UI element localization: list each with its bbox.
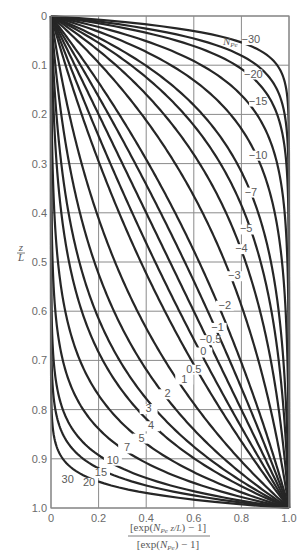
y-tick-label: 0.2 — [32, 108, 47, 120]
curve-label: −4 — [235, 242, 248, 254]
y-axis-label: z L — [17, 241, 25, 263]
y-tick-label: 0.6 — [32, 305, 47, 317]
y-tick-label: 0.7 — [32, 354, 47, 366]
curve-label: 0.5 — [186, 363, 201, 375]
curve-label: 15 — [95, 466, 107, 478]
curve-label: −1 — [211, 321, 224, 333]
x-tick-label: 0 — [48, 512, 54, 524]
x-tick-label: 0.2 — [91, 512, 106, 524]
y-tick-label: 0.4 — [32, 207, 47, 219]
y-tick-label: 0.8 — [32, 404, 47, 416]
curve-label: 3 — [146, 402, 152, 414]
svg-text:[exp(NPe) − 1]: [exp(NPe) − 1] — [137, 538, 199, 551]
curve-label: −2 — [218, 299, 231, 311]
curve-label: −7 — [245, 186, 258, 198]
curve-label: 7 — [124, 441, 130, 453]
curve-label: 4 — [148, 419, 154, 431]
y-tick-label: 0 — [41, 10, 47, 22]
y-tick-label: 0.3 — [32, 158, 47, 170]
curve-label: −5 — [240, 222, 253, 234]
curve-label: 10 — [107, 454, 119, 466]
curve-label: −15 — [249, 95, 268, 107]
curve-label: 20 — [83, 476, 95, 488]
curve-label: −0.5 — [200, 333, 222, 345]
x-tick-label: 1.0 — [281, 512, 296, 524]
y-tick-labels: 00.10.20.30.40.50.60.70.80.91.0 — [32, 10, 47, 514]
curve-label: 30 — [62, 473, 74, 485]
curve-label: −10 — [249, 149, 268, 161]
curve-label: 2 — [165, 387, 171, 399]
x-tick-label: 0.8 — [234, 512, 249, 524]
curve-label: −20 — [244, 68, 263, 80]
curve-label: 0 — [200, 345, 206, 357]
chart-canvas: 00.10.20.30.40.50.60.70.80.91.0 00.20.40… — [0, 0, 305, 551]
curve-label: −30 — [242, 33, 261, 45]
y-tick-label: 0.1 — [32, 59, 47, 71]
legend-title: NPe — [222, 35, 238, 49]
svg-text:[exp(NPe z/L) − 1]: [exp(NPe z/L) − 1] — [130, 521, 206, 535]
y-tick-label: 0.5 — [32, 256, 47, 268]
svg-text:L: L — [17, 251, 24, 263]
curve-label: 1 — [181, 373, 187, 385]
curve-label: 5 — [138, 432, 144, 444]
x-axis-label: [exp(NPe z/L) − 1] [exp(NPe) − 1] — [128, 521, 210, 551]
curve-label: −3 — [228, 269, 241, 281]
y-tick-label: 1.0 — [32, 502, 47, 514]
y-tick-label: 0.9 — [32, 453, 47, 465]
